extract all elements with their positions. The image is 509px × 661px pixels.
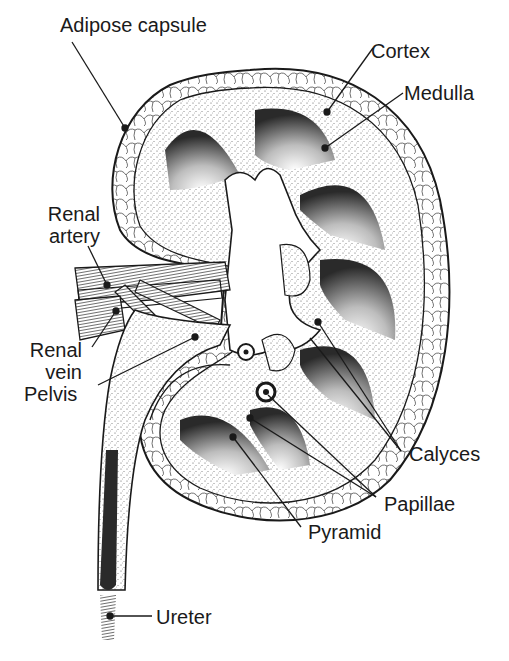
label-renal-vein-line2: vein: [20, 361, 82, 383]
label-renal-artery-line2: artery: [40, 225, 100, 247]
label-pyramid: Pyramid: [308, 521, 381, 543]
label-renal-artery-line1: Renal: [40, 203, 100, 225]
label-adipose-capsule: Adipose capsule: [60, 14, 207, 36]
kidney-diagram: Adipose capsule Cortex Medulla Renal art…: [0, 0, 509, 661]
label-medulla: Medulla: [404, 82, 474, 104]
label-pelvis: Pelvis: [24, 383, 77, 405]
label-cortex: Cortex: [371, 40, 430, 62]
label-papillae: Papillae: [384, 493, 455, 515]
label-calyces: Calyces: [409, 443, 480, 465]
label-renal-vein-line1: Renal: [20, 339, 82, 361]
label-ureter: Ureter: [156, 606, 212, 628]
